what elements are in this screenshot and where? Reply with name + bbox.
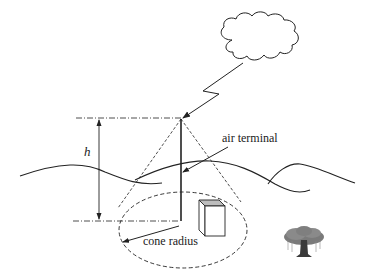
building-box bbox=[199, 200, 225, 236]
cone-base-ellipse bbox=[119, 192, 247, 268]
air-terminal-label: air terminal bbox=[222, 131, 278, 145]
tree-icon bbox=[284, 226, 324, 257]
cone-radius-label: cone radius bbox=[143, 234, 198, 248]
lightning-protection-diagram: h air terminal cone radius bbox=[0, 0, 373, 275]
ground-terrain bbox=[20, 161, 355, 192]
cloud-icon bbox=[221, 12, 298, 60]
lightning-bolt-arrow bbox=[183, 63, 243, 118]
height-reference-lines bbox=[73, 118, 181, 221]
air-terminal-pointer bbox=[183, 147, 228, 172]
height-label: h bbox=[84, 144, 91, 159]
